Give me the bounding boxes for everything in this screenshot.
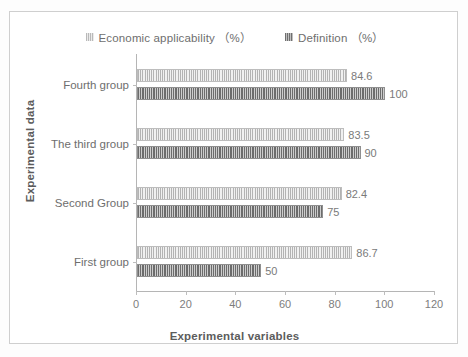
x-axis-title: Experimental variables xyxy=(10,330,459,342)
y-axis-tick xyxy=(133,203,137,204)
bar-value-definition-second-group: 75 xyxy=(327,206,339,218)
bar-group-first-group: First group 86.7 50 xyxy=(137,245,434,279)
x-axis-tick xyxy=(186,291,187,295)
chart-legend: Economic applicability （%） Definition （%… xyxy=(10,29,459,45)
x-axis-tick xyxy=(384,291,385,295)
y-axis-category-label-second-group: Second Group xyxy=(55,197,129,209)
x-axis-tick-label: 60 xyxy=(279,298,291,310)
bar-value-definition-fourth-group: 100 xyxy=(389,88,407,100)
bar-value-economic-applicability-fourth-group: 84.6 xyxy=(351,70,372,82)
bar-economic-applicability-fourth-group[interactable]: 84.6 xyxy=(137,69,347,82)
y-axis-category-label-first-group: First group xyxy=(74,256,129,268)
legend-swatch-definition-icon xyxy=(285,33,293,41)
bar-group-second-group: Second Group 82.4 75 xyxy=(137,186,434,220)
bar-definition-the-third-group[interactable]: 90 xyxy=(137,146,361,159)
bar-group-the-third-group: The third group 83.5 90 xyxy=(137,127,434,161)
bar-value-economic-applicability-first-group: 86.7 xyxy=(356,247,377,259)
bar-value-definition-first-group: 50 xyxy=(265,265,277,277)
bar-value-economic-applicability-second-group: 82.4 xyxy=(346,188,367,200)
bar-economic-applicability-the-third-group[interactable]: 83.5 xyxy=(137,128,344,141)
legend-item-definition: Definition （%） xyxy=(285,29,383,45)
bar-value-economic-applicability-the-third-group: 83.5 xyxy=(348,129,369,141)
x-axis-tick xyxy=(335,291,336,295)
chart-frame: Economic applicability （%） Definition （%… xyxy=(9,11,458,344)
y-axis-tick xyxy=(133,262,137,263)
x-axis-tick-label: 0 xyxy=(133,298,139,310)
bar-value-definition-the-third-group: 90 xyxy=(365,147,377,159)
x-axis-tick xyxy=(136,291,137,295)
chart-figure: Economic applicability （%） Definition （%… xyxy=(0,0,468,357)
y-axis-tick xyxy=(133,85,137,86)
y-axis-category-label-fourth-group: Fourth group xyxy=(63,79,129,91)
legend-label-definition: Definition （%） xyxy=(298,29,383,45)
x-axis-tick-label: 120 xyxy=(425,298,443,310)
x-axis-tick-label: 40 xyxy=(229,298,241,310)
legend-item-economic-applicability: Economic applicability （%） xyxy=(86,29,251,45)
legend-label-economic-applicability: Economic applicability （%） xyxy=(99,29,251,45)
x-axis-tick-label: 100 xyxy=(375,298,393,310)
bar-group-fourth-group: Fourth group 84.6 100 xyxy=(137,68,434,102)
bar-economic-applicability-first-group[interactable]: 86.7 xyxy=(137,246,352,259)
bar-definition-fourth-group[interactable]: 100 xyxy=(137,87,385,100)
x-axis-tick xyxy=(434,291,435,295)
bar-definition-second-group[interactable]: 75 xyxy=(137,205,323,218)
x-axis-tick-label: 80 xyxy=(329,298,341,310)
bar-definition-first-group[interactable]: 50 xyxy=(137,264,261,277)
y-axis-tick xyxy=(133,144,137,145)
bar-economic-applicability-second-group[interactable]: 82.4 xyxy=(137,187,342,200)
legend-swatch-economic-applicability-icon xyxy=(86,33,94,41)
plot-area: 0 20 40 60 80 100 120 Fourth group 84.6 … xyxy=(136,54,434,291)
y-axis-category-label-the-third-group: The third group xyxy=(51,138,129,150)
x-axis-tick-label: 20 xyxy=(180,298,192,310)
x-axis-tick xyxy=(285,291,286,295)
x-axis-tick xyxy=(235,291,236,295)
y-axis-title: Experimental data xyxy=(24,81,36,221)
